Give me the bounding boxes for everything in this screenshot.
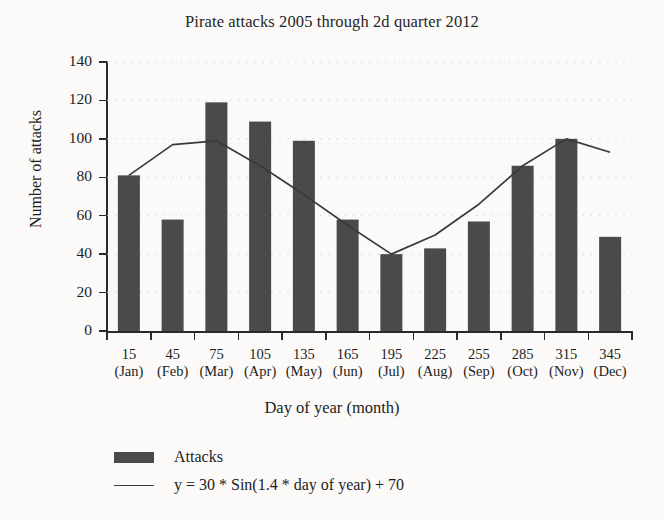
y-axis-tick <box>99 292 107 294</box>
y-axis-tick-label-wrap: 60 <box>48 206 92 224</box>
x-axis-tick <box>281 332 283 340</box>
x-axis-tick <box>500 332 502 340</box>
y-axis-tick-label-wrap: 100 <box>48 129 92 147</box>
line-swatch-icon <box>108 485 160 486</box>
x-axis-tick-label: 345(Dec) <box>583 346 637 380</box>
x-axis-tick <box>588 332 590 340</box>
x-axis-day-value: 75 <box>209 346 224 362</box>
bar <box>380 254 402 331</box>
y-axis-tick <box>99 177 107 179</box>
x-axis-tick <box>413 332 415 340</box>
bar <box>118 175 140 331</box>
bar <box>249 122 271 331</box>
legend-label-attacks: Attacks <box>160 448 223 466</box>
bar <box>599 237 621 331</box>
bar <box>162 220 184 331</box>
bar-series-attacks <box>118 102 621 331</box>
x-axis-day-value: 315 <box>556 346 578 362</box>
legend-item-formula: y = 30 * Sin(1.4 * day of year) + 70 <box>108 471 568 499</box>
x-axis-day-value: 105 <box>249 346 271 362</box>
y-axis-tick <box>99 253 107 255</box>
y-axis-tick-label-wrap: 140 <box>48 52 92 70</box>
x-axis-day-value: 15 <box>122 346 137 362</box>
y-axis-tick-label-wrap: 80 <box>48 167 92 185</box>
x-axis-day-value: 225 <box>424 346 446 362</box>
bar <box>424 248 446 331</box>
x-axis-tick <box>456 332 458 340</box>
x-axis-day-value: 195 <box>381 346 403 362</box>
x-axis-tick <box>369 332 371 340</box>
legend-item-attacks: Attacks <box>108 443 568 471</box>
y-axis-tick <box>99 138 107 140</box>
y-axis-tick <box>99 215 107 217</box>
x-axis-day-value: 345 <box>599 346 621 362</box>
y-axis-tick-label: 40 <box>52 244 92 262</box>
x-axis-day-value: 285 <box>512 346 534 362</box>
y-axis-tick-label: 60 <box>52 206 92 224</box>
x-axis-tick <box>194 332 196 340</box>
x-axis-day-value: 45 <box>165 346 180 362</box>
pirate-attacks-chart-figure: Pirate attacks 2005 through 2d quarter 2… <box>0 0 664 520</box>
chart-legend: Attacks y = 30 * Sin(1.4 * day of year) … <box>108 443 568 499</box>
x-axis-tick <box>238 332 240 340</box>
y-axis-tick-label-wrap: 120 <box>48 90 92 108</box>
y-axis-tick-label-wrap: 20 <box>48 283 92 301</box>
x-axis-tick <box>325 332 327 340</box>
x-axis-month-value: (Dec) <box>583 363 637 380</box>
y-axis-tick-label: 100 <box>52 129 92 147</box>
plot-svg <box>107 62 632 331</box>
plot-area <box>107 62 632 331</box>
y-axis-tick-label: 0 <box>52 321 92 339</box>
legend-label-formula: y = 30 * Sin(1.4 * day of year) + 70 <box>160 476 404 494</box>
y-axis-title: Number of attacks <box>27 69 45 269</box>
y-axis-tick-label-wrap: 40 <box>48 244 92 262</box>
x-axis-tick <box>106 332 108 340</box>
x-axis-title: Day of year (month) <box>0 398 664 418</box>
chart-title: Pirate attacks 2005 through 2d quarter 2… <box>0 12 664 32</box>
sine-trend-line <box>129 139 610 254</box>
bar <box>205 102 227 331</box>
gridlines <box>107 62 632 293</box>
x-axis-day-value: 255 <box>468 346 490 362</box>
bar-swatch-icon <box>108 452 160 463</box>
y-axis-tick-label: 120 <box>52 90 92 108</box>
x-axis-tick <box>150 332 152 340</box>
x-axis-day-value: 165 <box>337 346 359 362</box>
bar <box>293 141 315 331</box>
x-axis-day-value: 135 <box>293 346 315 362</box>
y-axis-tick-label-wrap: 0 <box>48 321 92 339</box>
bar <box>555 139 577 331</box>
y-axis-tick-label: 140 <box>52 52 92 70</box>
y-axis-tick <box>99 100 107 102</box>
bar <box>337 220 359 331</box>
x-axis-tick <box>544 332 546 340</box>
y-axis-tick-label: 20 <box>52 283 92 301</box>
bar <box>512 166 534 331</box>
y-axis-tick-label: 80 <box>52 167 92 185</box>
x-axis-tick <box>631 332 633 340</box>
bar <box>468 221 490 331</box>
y-axis-tick <box>99 61 107 63</box>
